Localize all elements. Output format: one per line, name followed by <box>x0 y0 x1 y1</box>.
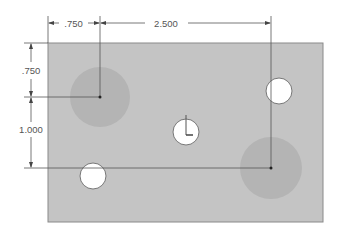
dim-left-bottom-label: 1.000 <box>19 124 43 135</box>
point-1 <box>99 96 102 99</box>
dimensioned-plate-drawing: .750 2.500 .750 1.000 <box>0 0 341 240</box>
hole-bottom-left <box>80 163 106 189</box>
point-2 <box>270 167 273 170</box>
dim-top-right-label: 2.500 <box>154 18 178 29</box>
hole-top-right <box>266 78 292 104</box>
dim-left-top-label: .750 <box>22 65 41 76</box>
dim-top-left-label: .750 <box>64 18 83 29</box>
